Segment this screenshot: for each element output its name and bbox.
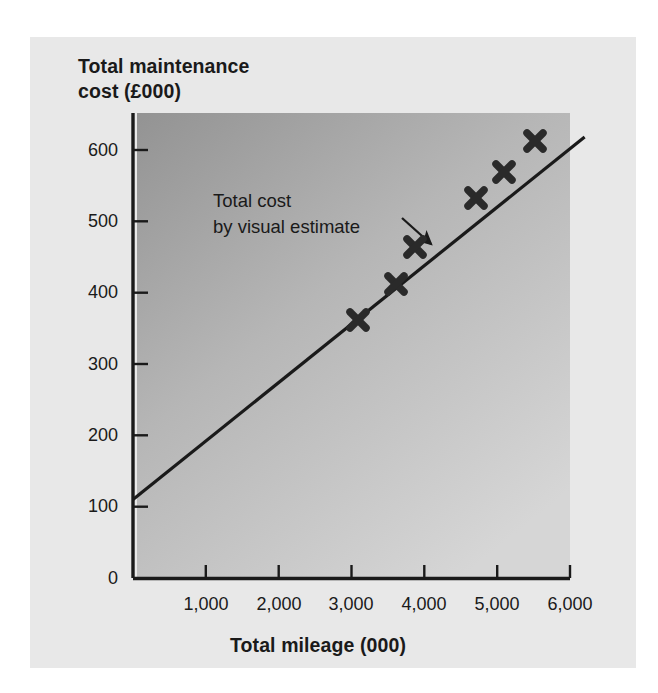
x-axis-title: Total mileage (000) xyxy=(230,634,406,657)
y-tick-label-500: 500 xyxy=(58,211,118,232)
x-tick-label-5000: 5,000 xyxy=(462,594,532,615)
y-axis-title-line2: cost (£000) xyxy=(78,80,181,102)
y-tick-label-300: 300 xyxy=(58,354,118,375)
x-tick-label-6000: 6,000 xyxy=(535,594,605,615)
y-tick-label-600: 600 xyxy=(58,140,118,161)
x-tick-label-4000: 4,000 xyxy=(389,594,459,615)
y-axis-title-line1: Total maintenance xyxy=(78,55,249,77)
x-tick-label-2000: 2,000 xyxy=(244,594,314,615)
x-tick-label-3000: 3,000 xyxy=(316,594,386,615)
y-tick-label-200: 200 xyxy=(58,425,118,446)
trend-line-annotation: Total cost by visual estimate xyxy=(213,188,360,240)
y-tick-label-0: 0 xyxy=(58,568,118,589)
x-tick-label-1000: 1,000 xyxy=(171,594,241,615)
y-tick-label-400: 400 xyxy=(58,282,118,303)
y-axis-title: Total maintenance cost (£000) xyxy=(78,54,328,104)
y-tick-label-100: 100 xyxy=(58,496,118,517)
annotation-line1: Total cost xyxy=(213,190,291,211)
annotation-line2: by visual estimate xyxy=(213,216,360,237)
plot-area xyxy=(137,113,570,577)
